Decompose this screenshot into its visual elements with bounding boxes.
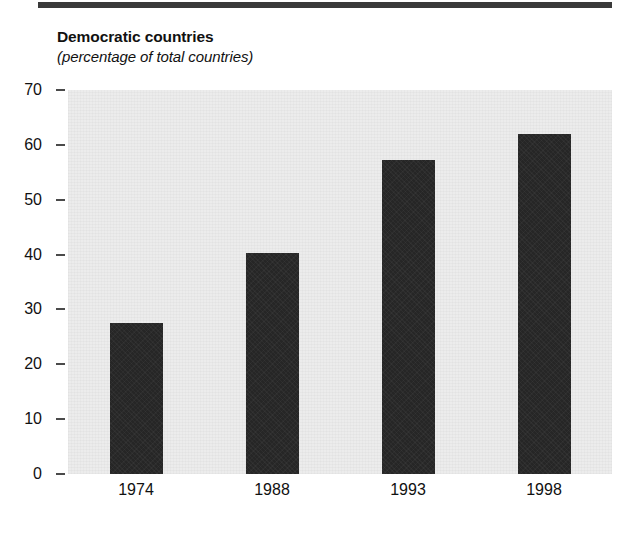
- y-axis-tick-label: 10: [4, 411, 42, 427]
- y-axis-tick-mark: [56, 363, 65, 365]
- y-axis-tick-mark: [56, 144, 65, 146]
- y-axis-tick-label: 60: [4, 137, 42, 153]
- plot-area: [68, 90, 612, 474]
- y-axis-tick-mark: [56, 254, 65, 256]
- y-axis-tick-label: 20: [4, 356, 42, 372]
- x-axis-tick-label: 1974: [68, 481, 204, 499]
- chart-figure: Democratic countries (percentage of tota…: [0, 0, 638, 533]
- y-axis-tick-label: 30: [4, 301, 42, 317]
- y-axis-tick-label: 70: [4, 82, 42, 98]
- chart-title-block: Democratic countries (percentage of tota…: [57, 27, 557, 66]
- x-axis-tick-label: 1998: [476, 481, 612, 499]
- x-axis-labels: 1974198819931998: [68, 481, 612, 505]
- chart-subtitle: (percentage of total countries): [57, 47, 557, 66]
- bar-1993: [382, 160, 435, 474]
- y-axis-tick-label: 0: [4, 466, 42, 482]
- y-axis-tick-mark: [56, 308, 65, 310]
- y-axis-tick-mark: [56, 89, 65, 91]
- y-axis-tick-label: 40: [4, 247, 42, 263]
- y-axis-tick-mark: [56, 418, 65, 420]
- bar-1974: [110, 323, 163, 474]
- x-axis-tick-label: 1988: [204, 481, 340, 499]
- y-axis-labels: 010203040506070: [0, 90, 42, 474]
- top-rule-divider: [38, 2, 612, 8]
- y-axis-tick-label: 50: [4, 192, 42, 208]
- y-axis-tick-mark: [56, 199, 65, 201]
- y-axis-tick-mark: [56, 473, 65, 475]
- x-axis-tick-label: 1993: [340, 481, 476, 499]
- bar-1988: [246, 253, 299, 474]
- page-title: Democratic countries: [57, 27, 557, 46]
- bar-1998: [518, 134, 571, 474]
